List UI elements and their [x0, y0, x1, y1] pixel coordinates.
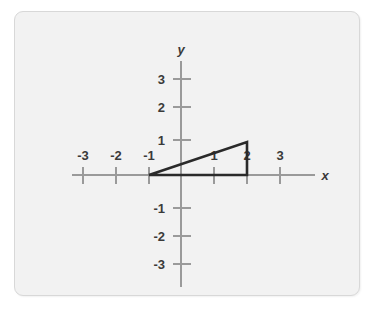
y-tick-label--1: -1 [153, 201, 165, 216]
x-tick-label-3: 3 [276, 148, 283, 163]
figure-card: -3 -2 -1 1 2 3 3 2 1 -1 -2 -3 y x [14, 11, 360, 296]
coordinate-plane-svg: -3 -2 -1 1 2 3 3 2 1 -1 -2 -3 y x [15, 12, 361, 297]
y-tick-label-1: 1 [158, 133, 165, 148]
y-axis-label: y [176, 42, 185, 57]
coordinate-plane-plot: -3 -2 -1 1 2 3 3 2 1 -1 -2 -3 y x [15, 12, 361, 297]
x-tick-label-1: 1 [210, 148, 217, 163]
y-tick-label-2: 2 [158, 100, 165, 115]
y-tick-label--3: -3 [153, 257, 165, 272]
x-tick-label--2: -2 [110, 148, 122, 163]
y-tick-label--2: -2 [153, 229, 165, 244]
y-tick-label-3: 3 [158, 72, 165, 87]
x-tick-label--1: -1 [143, 148, 155, 163]
x-axis-label: x [320, 168, 329, 183]
x-tick-label--3: -3 [77, 148, 89, 163]
